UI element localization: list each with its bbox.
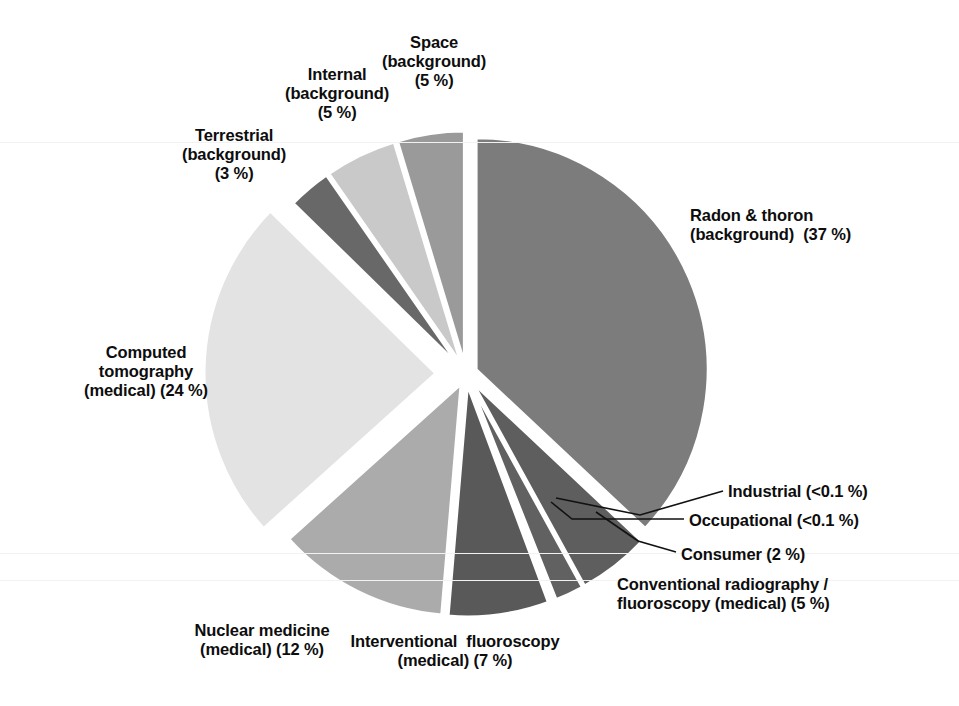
pie-label-line: Interventional fluoroscopy — [351, 632, 560, 651]
pie-label-line: Internal — [285, 65, 389, 84]
pie-label-interventional-fluoroscopy: Interventional fluoroscopy(medical) (7 %… — [351, 632, 560, 670]
pie-label-line: Computed — [84, 343, 208, 362]
pie-label-line: (medical) (7 %) — [351, 651, 560, 670]
pie-label-consumer: Consumer (2 %) — [681, 545, 805, 564]
pie-label-line: Conventional radiography / — [617, 575, 830, 594]
pie-label-line: (medical) (24 %) — [84, 381, 208, 400]
pie-label-line: Industrial (<0.1 %) — [728, 482, 868, 501]
pie-label-line: (background) (37 %) — [690, 225, 851, 244]
pie-label-space: Space(background)(5 %) — [382, 33, 486, 90]
pie-label-radon-thoron: Radon & thoron(background) (37 %) — [690, 206, 851, 244]
pie-label-line: Radon & thoron — [690, 206, 851, 225]
pie-label-line: (medical) (12 %) — [195, 640, 330, 659]
pie-label-line: Space — [382, 33, 486, 52]
pie-label-line: (5 %) — [285, 103, 389, 122]
pie-label-line: Occupational (<0.1 %) — [689, 511, 859, 530]
pie-label-line: tomography — [84, 362, 208, 381]
pie-label-industrial: Industrial (<0.1 %) — [728, 482, 868, 501]
pie-label-line: (3 %) — [182, 164, 286, 183]
pie-label-internal: Internal(background)(5 %) — [285, 65, 389, 122]
pie-label-computed-tomography: Computedtomography(medical) (24 %) — [84, 343, 208, 400]
pie-label-conventional-radiography-fluoroscopy: Conventional radiography /fluoroscopy (m… — [617, 575, 830, 613]
pie-label-line: Terrestrial — [182, 126, 286, 145]
pie-label-line: (5 %) — [382, 71, 486, 90]
pie-label-line: (background) — [285, 84, 389, 103]
pie-label-nuclear-medicine: Nuclear medicine(medical) (12 %) — [195, 621, 330, 659]
pie-label-occupational: Occupational (<0.1 %) — [689, 511, 859, 530]
pie-label-line: (background) — [182, 145, 286, 164]
pie-chart-figure: Radon & thoron(background) (37 %)Convent… — [0, 0, 959, 706]
pie-label-line: (background) — [382, 52, 486, 71]
pie-label-line: fluoroscopy (medical) (5 %) — [617, 594, 830, 613]
pie-label-line: Consumer (2 %) — [681, 545, 805, 564]
pie-label-line: Nuclear medicine — [195, 621, 330, 640]
pie-label-terrestrial: Terrestrial(background)(3 %) — [182, 126, 286, 183]
